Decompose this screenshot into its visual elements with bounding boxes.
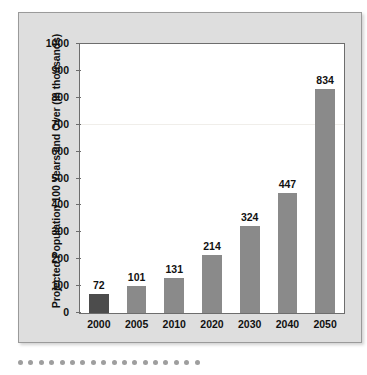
bar-value-label: 324 (241, 211, 259, 223)
x-axis-tick-label: 2020 (200, 318, 223, 330)
bar-value-label: 131 (166, 263, 184, 275)
bar: 3242030 (240, 226, 260, 313)
y-axis-tick: 200 (76, 258, 81, 259)
y-axis-tick: 300 (76, 231, 81, 232)
decorative-dot (163, 360, 168, 365)
decorative-dot (174, 360, 179, 365)
y-axis-tick-label: 800 (51, 91, 69, 103)
chart-figure-frame: Projected Population 100 Years and Over … (18, 12, 362, 343)
y-axis-tick: 0 (76, 312, 81, 313)
decorative-dot (132, 360, 137, 365)
bar: 722000 (89, 294, 109, 313)
bar-value-label: 214 (203, 240, 221, 252)
decorative-dot (18, 360, 23, 365)
decorative-dot-strip (18, 360, 200, 365)
y-axis-tick: 1000 (76, 43, 81, 44)
decorative-dot (39, 360, 44, 365)
x-axis-tick-label: 2050 (313, 318, 336, 330)
x-axis-tick-label: 2005 (125, 318, 148, 330)
y-axis-tick: 400 (76, 204, 81, 205)
y-axis-tick-label: 700 (51, 118, 69, 130)
decorative-dot (101, 360, 106, 365)
decorative-dot (28, 360, 33, 365)
bar-value-label: 834 (316, 74, 334, 86)
y-axis-tick-label: 400 (51, 198, 69, 210)
decorative-dot (70, 360, 75, 365)
y-axis-tick-label: 500 (51, 172, 69, 184)
y-axis-tick: 600 (76, 151, 81, 152)
y-axis-tick-label: 100 (51, 279, 69, 291)
y-axis-tick-label: 900 (51, 64, 69, 76)
bar-value-label: 447 (279, 178, 297, 190)
y-axis-tick-label: 0 (63, 306, 69, 318)
bar: 8342050 (315, 89, 335, 313)
y-axis-tick-label: 200 (51, 252, 69, 264)
y-axis-tick-label: 1000 (46, 37, 69, 49)
x-axis-tick-label: 2040 (276, 318, 299, 330)
decorative-dot (122, 360, 127, 365)
y-axis-tick-label: 300 (51, 225, 69, 237)
decorative-dot (60, 360, 65, 365)
bar: 1012005 (127, 286, 147, 313)
decorative-dot (153, 360, 158, 365)
y-axis-tick-label: 600 (51, 145, 69, 157)
decorative-dot (184, 360, 189, 365)
decorative-dot (49, 360, 54, 365)
x-axis-tick-label: 2000 (87, 318, 110, 330)
bar-value-label: 101 (128, 271, 146, 283)
bar-value-label: 72 (93, 279, 105, 291)
decorative-dot (112, 360, 117, 365)
plot-area: 10009008007006005004003002001000 7220001… (79, 43, 345, 314)
x-axis-tick-label: 2030 (238, 318, 261, 330)
decorative-dot (91, 360, 96, 365)
bar: 4472040 (278, 193, 298, 313)
decorative-dot (80, 360, 85, 365)
y-axis-tick: 500 (76, 178, 81, 179)
y-axis-tick: 900 (76, 70, 81, 71)
y-axis-tick: 800 (76, 97, 81, 98)
bar: 1312010 (164, 278, 184, 313)
y-axis-tick: 100 (76, 285, 81, 286)
gridline (80, 124, 344, 125)
decorative-dot (195, 360, 200, 365)
x-axis-tick-label: 2010 (163, 318, 186, 330)
decorative-dot (143, 360, 148, 365)
y-axis-tick: 700 (76, 124, 81, 125)
bar: 2142020 (202, 255, 222, 313)
